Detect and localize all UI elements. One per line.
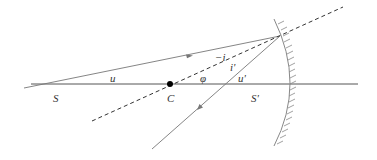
ray-diagram: S C S' u φ u' −i i' xyxy=(0,0,377,160)
label-image-S-prime: S' xyxy=(251,93,259,104)
label-angle-u-prime: u' xyxy=(238,73,246,84)
normal-line xyxy=(92,7,343,121)
center-point xyxy=(167,81,173,87)
label-angle-phi: φ xyxy=(200,73,206,84)
label-angle-u: u xyxy=(110,73,116,84)
mirror-hatching xyxy=(277,21,296,144)
concave-mirror xyxy=(274,19,290,146)
label-source-S: S xyxy=(53,93,59,104)
diagram-graphics xyxy=(0,0,377,160)
label-angle-i-prime: i' xyxy=(230,62,235,73)
label-angle-minus-i: −i xyxy=(215,52,225,63)
incident-ray-arrow-icon xyxy=(186,55,193,59)
label-center-C: C xyxy=(167,93,174,104)
